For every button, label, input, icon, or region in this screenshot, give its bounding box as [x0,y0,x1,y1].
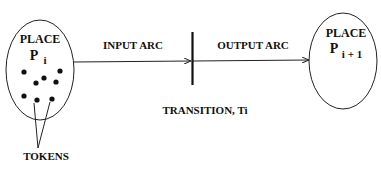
place-right-subscript: i + 1 [342,48,362,60]
place-left-subscript: i [43,54,46,66]
token [53,79,58,84]
tokens-label: TOKENS [23,150,69,162]
tokens [21,68,62,102]
token [57,68,62,73]
place-right-label: PLACE [326,26,367,40]
output-arc-label: OUTPUT ARC [217,39,289,51]
input-arc-label: INPUT ARC [103,39,163,51]
token [41,75,46,80]
output-arc: OUTPUT ARC [193,39,309,61]
place-right-symbol: P [330,41,339,56]
place-left-symbol: P [30,48,39,63]
token [21,69,26,74]
input-arc: INPUT ARC [74,39,191,62]
place-left-label: PLACE [20,32,61,46]
token [21,93,26,98]
token [34,97,39,102]
place-left: PLACE P i [6,20,74,120]
token [33,80,38,85]
petri-net-diagram: PLACE P i TOKENS INPUT ARC TRANSITION, T… [0,0,381,175]
tokens-pointer [34,102,50,148]
transition-label: TRANSITION, Ti [162,104,247,116]
token [49,96,54,101]
place-right: PLACE P i + 1 [309,13,377,109]
